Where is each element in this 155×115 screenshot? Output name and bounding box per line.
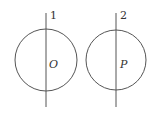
diagram-canvas: 1 O 2 P — [0, 0, 155, 115]
line-label-2: 2 — [120, 9, 127, 22]
center-label-p: P — [119, 58, 128, 71]
diagram: 1 O 2 P — [0, 0, 155, 115]
line-label-1: 1 — [50, 9, 57, 22]
figure-left: 1 O — [15, 9, 77, 107]
figure-right: 2 P — [86, 9, 146, 107]
center-label-o: O — [49, 58, 58, 71]
